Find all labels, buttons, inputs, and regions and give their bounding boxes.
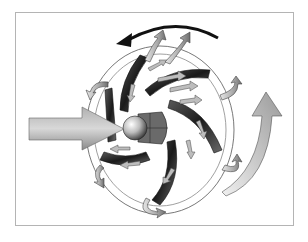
impeller-hub bbox=[123, 112, 168, 144]
outlet-arrow-icon bbox=[222, 92, 282, 196]
pump-impeller-illustration bbox=[0, 0, 308, 242]
rotation-arrow-icon bbox=[116, 26, 218, 47]
